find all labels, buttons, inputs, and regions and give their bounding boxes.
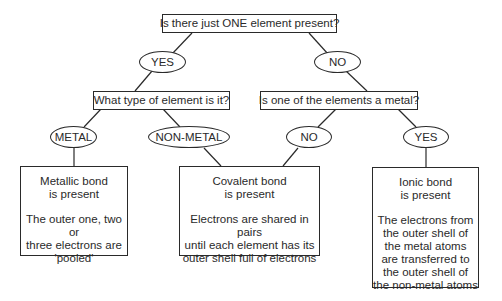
metallic-bond-title-2: is present <box>21 188 127 201</box>
metallic-bond-desc: The outer one, two or three electrons ar… <box>21 213 127 265</box>
ionic-bond-desc: The electrons from the outer shell of th… <box>373 214 478 292</box>
metallic-bond-title-1: Metallic bond <box>21 175 127 188</box>
yes-oval: YES <box>139 51 186 73</box>
metallic-bond-box: Metallic bond is present The outer one, … <box>20 166 128 256</box>
root-question-box: Is there just ONE element present? <box>162 14 337 33</box>
ionic-bond-box: Ionic bond is present The electrons from… <box>372 167 479 288</box>
yes-label: YES <box>151 56 174 68</box>
ionic-bond-title-1: Ionic bond <box>373 176 478 189</box>
metal-question-text: Is one of the elements a metal? <box>259 94 419 107</box>
covalent-bond-title-2: is present <box>180 188 319 201</box>
ionic-bond-title-2: is present <box>373 189 478 202</box>
non-metal-label: NON-METAL <box>156 131 223 143</box>
no-metal-oval: NO <box>286 126 332 148</box>
covalent-bond-desc: Electrons are shared in pairs until each… <box>180 213 319 265</box>
element-type-question-box: What type of element is it? <box>93 91 230 110</box>
root-question-text: Is there just ONE element present? <box>160 17 340 30</box>
no-label: NO <box>329 56 346 68</box>
covalent-bond-title-1: Covalent bond <box>180 175 319 188</box>
element-type-question-text: What type of element is it? <box>94 94 230 107</box>
yes-metal-oval: YES <box>403 126 449 148</box>
no-oval: NO <box>314 51 361 73</box>
covalent-bond-box: Covalent bond is present Electrons are s… <box>179 166 320 256</box>
no-metal-label: NO <box>300 131 317 143</box>
non-metal-oval: NON-METAL <box>148 126 230 148</box>
metal-question-box: Is one of the elements a metal? <box>260 91 418 110</box>
metal-oval: METAL <box>50 126 97 148</box>
metal-label: METAL <box>55 131 93 143</box>
yes-metal-label: YES <box>414 131 437 143</box>
